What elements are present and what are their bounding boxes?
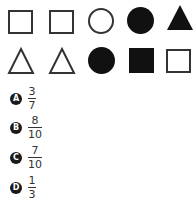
circle-filled-shape (127, 7, 154, 34)
square-outline-shape (8, 10, 33, 34)
triangle-filled-shape (166, 4, 194, 32)
fraction: 1 3 (28, 175, 36, 200)
denominator: 7 (29, 100, 36, 111)
denominator: 10 (28, 129, 42, 140)
numerator: 8 (32, 115, 39, 126)
option-b[interactable]: B 8 10 (10, 115, 42, 140)
square-outline-shape (166, 49, 191, 73)
numerator: 3 (29, 86, 36, 97)
square-filled-shape (129, 48, 154, 73)
denominator: 3 (29, 189, 36, 200)
option-letter-badge: A (10, 93, 22, 105)
numerator: 1 (29, 175, 36, 186)
triangle-outline-shape (48, 47, 76, 75)
option-letter-badge: C (10, 152, 22, 164)
fraction: 3 7 (28, 86, 36, 111)
option-d[interactable]: D 1 3 (10, 175, 36, 200)
circle-filled-shape (88, 47, 115, 74)
numerator: 7 (32, 145, 39, 156)
circle-outline-shape (88, 8, 114, 34)
triangle-outline-shape (7, 47, 35, 75)
denominator: 10 (28, 159, 42, 170)
fraction: 8 10 (28, 115, 42, 140)
square-outline-shape (49, 10, 74, 34)
option-letter-badge: D (10, 182, 22, 194)
option-c[interactable]: C 7 10 (10, 145, 42, 170)
fraction: 7 10 (28, 145, 42, 170)
option-letter-badge: B (10, 122, 22, 134)
option-a[interactable]: A 3 7 (10, 86, 36, 111)
